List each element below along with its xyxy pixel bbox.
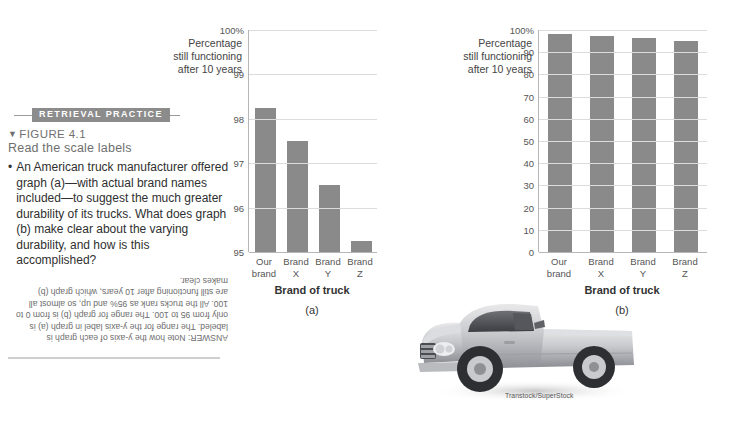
- bar-our-brand: [255, 108, 276, 252]
- category-label-line: Z: [344, 268, 376, 280]
- bar-our-brand: [548, 34, 572, 252]
- answer-text-inverted: ANSWER: Note how the y-axis of each grap…: [16, 275, 228, 343]
- chart-a-bars: [249, 30, 377, 252]
- gridline: [539, 230, 707, 231]
- gridline: [249, 74, 377, 75]
- category-label: BrandZ: [664, 256, 706, 279]
- chart-b-plot-area: [538, 30, 707, 252]
- category-label: BrandY: [312, 256, 344, 279]
- y-tick-label: 90: [523, 47, 534, 58]
- category-label-line: Z: [664, 268, 706, 280]
- gridline: [539, 74, 707, 75]
- gridline: [249, 163, 377, 164]
- category-label: BrandX: [580, 256, 622, 279]
- retrieval-practice-panel: RETRIEVAL PRACTICE ▼FIGURE 4.1 Read the …: [8, 108, 230, 343]
- y-tick-label: 30: [523, 180, 534, 191]
- gridline: [249, 208, 377, 209]
- chart-a-y-axis-title: Percentage still functioning after 10 ye…: [150, 37, 242, 76]
- y-title-line-3: after 10 years: [150, 63, 242, 76]
- answer-divider: [8, 357, 220, 359]
- y-tick-label: 0: [529, 247, 534, 258]
- gridline: [539, 252, 707, 253]
- chart-a-x-axis-title: Brand of truck: [248, 284, 376, 296]
- y-tick-label: 40: [523, 158, 534, 169]
- category-label-line: brand: [538, 268, 580, 280]
- y-tick-label: 100%: [220, 25, 244, 36]
- category-label: BrandX: [280, 256, 312, 279]
- chart-a-plot-wrap: 9596979899100% OurbrandBrandXBrandYBrand…: [248, 30, 377, 252]
- category-label-line: X: [580, 268, 622, 280]
- category-label-line: Brand: [622, 256, 664, 268]
- y-tick-label: 100%: [510, 25, 534, 36]
- gridline: [249, 30, 377, 31]
- bar-slot: [313, 30, 345, 252]
- gridline: [539, 185, 707, 186]
- y-tick-label: 80: [523, 69, 534, 80]
- y-title-line-3: after 10 years: [440, 63, 532, 76]
- y-title-line-2: still functioning: [440, 50, 532, 63]
- category-label-line: Brand: [344, 256, 376, 268]
- pickup-truck-illustration: [418, 283, 650, 403]
- y-tick-label: 97: [233, 158, 244, 169]
- y-tick-label: 60: [523, 113, 534, 124]
- y-tick-label: 50: [523, 136, 534, 147]
- gridline: [539, 30, 707, 31]
- category-label-line: Brand: [664, 256, 706, 268]
- category-label: BrandY: [622, 256, 664, 279]
- chart-b-category-labels: OurbrandBrandXBrandYBrandZ: [538, 256, 706, 279]
- gridline: [539, 119, 707, 120]
- chart-a-category-labels: OurbrandBrandXBrandYBrandZ: [248, 256, 376, 279]
- gridline: [539, 141, 707, 142]
- y-tick-label: 20: [523, 202, 534, 213]
- y-tick-label: 70: [523, 91, 534, 102]
- y-tick-label: 96: [233, 202, 244, 213]
- y-title-line-1: Percentage: [440, 37, 532, 50]
- category-label: BrandZ: [344, 256, 376, 279]
- bar-brand-y: [319, 185, 340, 252]
- y-tick-label: 99: [233, 69, 244, 80]
- gridline: [249, 252, 377, 253]
- category-label-line: Y: [622, 268, 664, 280]
- bullet-icon: •: [8, 160, 12, 269]
- category-label-line: Y: [312, 268, 344, 280]
- bar-brand-z: [351, 241, 372, 252]
- gridline: [539, 163, 707, 164]
- photo-credit: Transtock/SuperStock: [505, 392, 574, 399]
- question-text: An American truck manufacturer offered g…: [16, 160, 230, 269]
- retrieval-practice-badge: RETRIEVAL PRACTICE: [32, 108, 170, 122]
- retrieval-practice-banner: RETRIEVAL PRACTICE: [14, 108, 230, 122]
- category-label-line: Brand: [312, 256, 344, 268]
- question-block: • An American truck manufacturer offered…: [8, 160, 230, 269]
- bar-brand-x: [287, 141, 308, 252]
- triangle-down-icon: ▼: [8, 129, 17, 139]
- gridline: [539, 52, 707, 53]
- category-label-line: X: [280, 268, 312, 280]
- banner-rule-left: [14, 115, 32, 116]
- category-label: Ourbrand: [248, 256, 280, 279]
- bar-slot: [249, 30, 281, 252]
- y-title-line-2: still functioning: [150, 50, 242, 63]
- gridline: [539, 97, 707, 98]
- category-label: Ourbrand: [538, 256, 580, 279]
- chart-a-plot-area: [248, 30, 377, 252]
- y-tick-label: 95: [233, 247, 244, 258]
- category-label-line: Our: [248, 256, 280, 268]
- y-title-line-1: Percentage: [150, 37, 242, 50]
- figure-number: FIGURE 4.1: [19, 128, 86, 140]
- banner-rule-right: [170, 115, 180, 116]
- figure-number-line: ▼FIGURE 4.1: [8, 128, 230, 140]
- category-label-line: Our: [538, 256, 580, 268]
- category-label-line: Brand: [580, 256, 622, 268]
- gridline: [249, 119, 377, 120]
- truck-photo: [418, 283, 650, 403]
- chart-b-plot-wrap: 0102030405060708090100% OurbrandBrandXBr…: [538, 30, 707, 252]
- bar-brand-z: [674, 41, 698, 252]
- gridline: [539, 208, 707, 209]
- chart-a-panel-label: (a): [248, 304, 376, 316]
- bar-slot: [281, 30, 313, 252]
- bar-slot: [345, 30, 377, 252]
- y-tick-label: 10: [523, 224, 534, 235]
- figure-title: Read the scale labels: [8, 141, 230, 155]
- category-label-line: Brand: [280, 256, 312, 268]
- chart-b-y-axis-title: Percentage still functioning after 10 ye…: [440, 37, 532, 76]
